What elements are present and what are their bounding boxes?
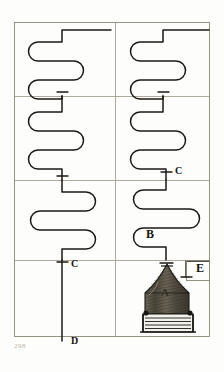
coil-left-second <box>29 96 84 180</box>
furnace-grate <box>140 310 196 332</box>
coil-right-upper <box>131 30 210 99</box>
grate-stud-left <box>143 310 148 315</box>
label-e: E <box>196 262 204 274</box>
label-c-lower: C <box>71 259 78 269</box>
label-b: B <box>146 228 154 240</box>
coil-left-third <box>31 180 96 260</box>
coil-right-third <box>134 180 200 260</box>
figure-svg <box>0 0 224 372</box>
folio-number: 298 <box>14 342 26 350</box>
label-c-upper: C <box>175 166 182 176</box>
grate-stud-right <box>187 310 192 315</box>
engraving-plate: A B C C D E 298 <box>0 0 224 372</box>
coil-left-upper <box>29 30 112 99</box>
label-d: D <box>71 336 78 346</box>
label-a: A <box>161 287 169 298</box>
